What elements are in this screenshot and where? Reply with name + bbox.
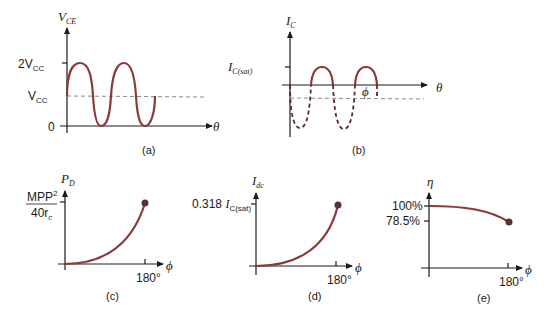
ic-conduction-pulse-1 [311,67,333,85]
y-tick-denominator: 40rc [31,206,52,222]
figure-canvas: VCE 2VCC VCC 0 θ (a) IC IC(sat) ϕ θ (b) … [0,0,559,321]
panel-c-power-dissipation: PD MPP2 40rc 180° ϕ (c) [26,171,173,302]
tick-label-zero: 0 [48,120,55,134]
x-axis-label: ϕ [166,258,173,273]
x-axis-label: ϕ [525,262,532,277]
panel-caption: (b) [352,144,365,156]
ic-cutoff-portion-2 [333,85,355,129]
phi-label: ϕ [362,84,369,99]
idc-curve [256,205,338,266]
panel-caption: (a) [142,144,155,156]
endpoint-marker [506,219,513,226]
y-tick-numerator: MPP2 [27,189,58,204]
tick-label-vcc: VCC [28,89,48,105]
x-tick-label: 180° [499,275,524,289]
ic-cutoff-portion-1 [290,85,311,128]
panel-a-vce-waveform: VCE 2VCC VCC 0 θ (a) [18,9,220,156]
panel-b-ic-waveform: IC IC(sat) ϕ θ (b) [227,13,443,156]
x-tick-label: 180° [327,273,352,287]
y-axis-label: VCE [58,9,76,26]
panel-caption: (d) [308,290,321,302]
y-tick-label-785: 78.5% [386,214,420,228]
efficiency-curve [429,206,509,222]
y-axis-label: η [427,174,433,189]
y-axis-label: PD [60,171,75,188]
x-axis-label: θ [436,80,443,95]
endpoint-marker [142,200,149,207]
panel-caption: (c) [106,290,119,302]
x-axis-label: θ [213,119,220,134]
y-axis-label: Idc [251,173,264,190]
panel-e-efficiency: η 100% 78.5% 180° ϕ (e) [386,174,532,304]
tick-label-ic-sat: IC(sat) [227,59,253,76]
endpoint-marker [335,202,342,209]
x-axis-label: ϕ [355,260,362,275]
y-axis-label: IC [285,13,296,30]
vce-sine-curve [67,63,155,126]
x-tick-label: 180° [136,271,161,285]
ic-conduction-pulse-2 [355,67,377,85]
panel-caption: (e) [477,292,490,304]
tick-label-2vcc: 2VCC [18,57,44,73]
y-tick-label: 0.318 IC(sat) [192,197,251,213]
panel-d-dc-current: Idc 0.318 IC(sat) 180° ϕ (d) [192,173,362,302]
y-tick-label-100: 100% [392,199,423,213]
pd-curve [65,203,145,264]
